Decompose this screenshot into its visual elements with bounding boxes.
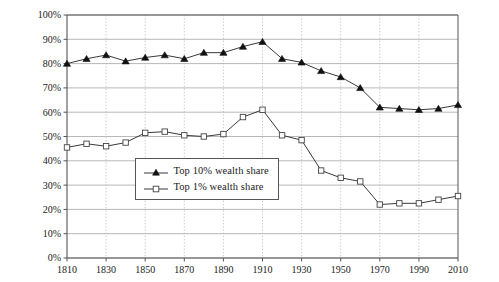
- x-axis-tick-labels: 1810183018501870189019101930195019701990…: [57, 264, 468, 275]
- data-point-marker: [123, 140, 128, 145]
- data-point-marker: [64, 145, 69, 150]
- data-point-marker: [299, 137, 304, 142]
- chart-legend: Top 10% wealth share Top 1% wealth share: [135, 158, 278, 200]
- legend-label-top1: Top 1% wealth share: [173, 181, 263, 192]
- y-tick-label: 70%: [43, 82, 61, 93]
- x-tick-label: 1850: [135, 264, 155, 275]
- plot-svg: 0%10%20%30%40%50%60%70%80%90%100% 181018…: [0, 0, 499, 282]
- x-tick-label: 1830: [96, 264, 116, 275]
- y-tick-label: 30%: [43, 180, 61, 191]
- legend-marker-filled-triangle-icon: [143, 165, 169, 177]
- y-tick-label: 100%: [38, 9, 61, 20]
- x-tick-label: 1930: [292, 264, 312, 275]
- legend-label-top10: Top 10% wealth share: [173, 165, 268, 176]
- data-point-marker: [377, 202, 382, 207]
- legend-item-top1: Top 1% wealth share: [143, 179, 268, 195]
- data-point-marker: [103, 52, 110, 58]
- y-tick-label: 20%: [43, 204, 61, 215]
- x-tick-label: 1810: [57, 264, 77, 275]
- data-point-marker: [455, 193, 460, 198]
- y-tick-label: 80%: [43, 58, 61, 69]
- data-point-marker: [143, 130, 148, 135]
- y-tick-label: 0%: [48, 252, 61, 263]
- legend-item-top10: Top 10% wealth share: [143, 163, 268, 179]
- data-point-marker: [279, 133, 284, 138]
- x-tick-label: 1910: [253, 264, 273, 275]
- x-tick-label: 2010: [448, 264, 468, 275]
- y-tick-label: 90%: [43, 34, 61, 45]
- data-point-marker: [318, 168, 323, 173]
- data-point-marker: [201, 134, 206, 139]
- data-point-marker: [84, 141, 89, 146]
- x-tick-label: 1890: [213, 264, 233, 275]
- x-tick-label: 1870: [174, 264, 194, 275]
- data-point-marker: [240, 114, 245, 119]
- data-point-marker: [161, 52, 168, 58]
- data-point-marker: [416, 201, 421, 206]
- plot-area-wrapper: 0%10%20%30%40%50%60%70%80%90%100% 181018…: [0, 0, 499, 282]
- x-tick-label: 1990: [409, 264, 429, 275]
- data-point-marker: [318, 68, 325, 74]
- data-point-marker: [454, 102, 461, 108]
- y-tick-label: 50%: [43, 131, 61, 142]
- data-point-marker: [182, 133, 187, 138]
- y-tick-label: 40%: [43, 155, 61, 166]
- data-point-marker: [338, 175, 343, 180]
- wealth-share-chart: Share of top decile or percentile in tot…: [0, 0, 499, 282]
- x-tick-label: 1950: [331, 264, 351, 275]
- data-point-marker: [436, 197, 441, 202]
- data-point-marker: [221, 131, 226, 136]
- data-point-marker: [162, 129, 167, 134]
- data-point-marker: [103, 144, 108, 149]
- data-point-marker: [397, 201, 402, 206]
- y-tick-label: 60%: [43, 107, 61, 118]
- data-point-marker: [337, 74, 344, 80]
- series-top10: [63, 38, 461, 112]
- y-axis-tick-labels: 0%10%20%30%40%50%60%70%80%90%100%: [38, 9, 61, 263]
- data-point-marker: [260, 107, 265, 112]
- y-tick-label: 10%: [43, 228, 61, 239]
- data-point-marker: [358, 179, 363, 184]
- legend-marker-open-square-icon: [143, 181, 169, 193]
- x-tick-label: 1970: [370, 264, 390, 275]
